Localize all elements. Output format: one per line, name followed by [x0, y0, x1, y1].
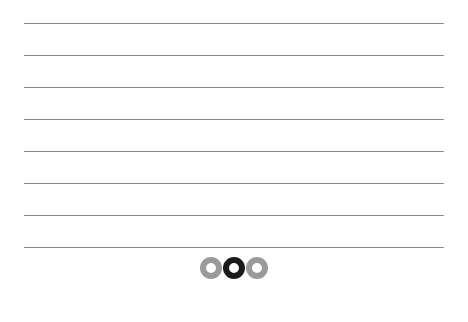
ruled-line	[24, 119, 444, 120]
ruled-line	[24, 247, 444, 248]
ruled-line	[24, 183, 444, 184]
page-dot-2-active[interactable]	[223, 257, 245, 279]
ruled-line	[24, 87, 444, 88]
ruled-line	[24, 151, 444, 152]
ruled-line	[24, 215, 444, 216]
ruled-line	[24, 23, 444, 24]
page-dot-1[interactable]	[200, 257, 222, 279]
page-indicator	[200, 257, 268, 279]
ruled-line	[24, 55, 444, 56]
page-dot-3[interactable]	[246, 257, 268, 279]
